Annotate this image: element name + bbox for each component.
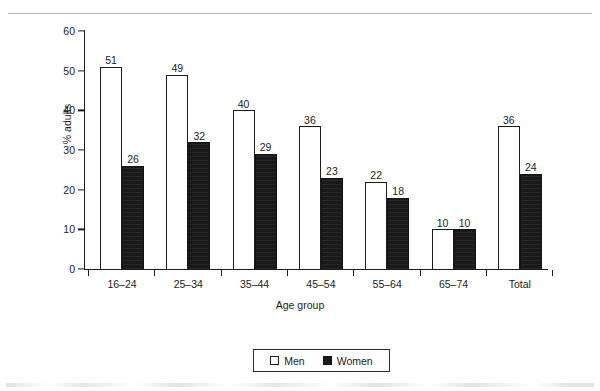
y-axis-tick bbox=[78, 149, 84, 150]
bar-men[interactable]: 49 bbox=[166, 75, 188, 269]
bar-women[interactable]: 29 bbox=[255, 154, 277, 269]
bar-men[interactable]: 40 bbox=[233, 110, 255, 269]
bar-women[interactable]: 26 bbox=[122, 166, 144, 269]
page-rule-top bbox=[8, 13, 592, 14]
bar-value-label: 24 bbox=[525, 162, 537, 173]
bar-men[interactable]: 51 bbox=[100, 67, 122, 269]
y-axis-tick bbox=[78, 189, 84, 190]
x-axis-tick bbox=[154, 270, 155, 276]
y-axis-tick-label: 20 bbox=[63, 185, 75, 196]
bar-women[interactable]: 24 bbox=[520, 174, 542, 269]
bar-value-label: 23 bbox=[326, 166, 338, 177]
x-axis-tick bbox=[287, 270, 288, 276]
y-axis-tick bbox=[78, 229, 84, 230]
x-axis-tick bbox=[552, 270, 553, 276]
x-axis-tick-label: 45–54 bbox=[306, 279, 335, 290]
bar-group: 4029 bbox=[233, 31, 277, 269]
legend-label-men: Men bbox=[284, 355, 304, 367]
bar-value-label: 36 bbox=[304, 115, 316, 126]
bar-men[interactable]: 10 bbox=[432, 229, 454, 269]
y-axis-tick bbox=[78, 70, 84, 71]
x-axis-tick-label: Total bbox=[509, 279, 531, 290]
bar-value-label: 49 bbox=[171, 63, 183, 74]
x-axis-tick-label: 25–34 bbox=[174, 279, 203, 290]
legend-item-men: Men bbox=[270, 355, 304, 367]
bar-group: 1010 bbox=[432, 31, 476, 269]
bar-women[interactable]: 23 bbox=[321, 178, 343, 269]
legend-item-women: Women bbox=[323, 355, 373, 367]
y-axis-tick bbox=[78, 30, 84, 31]
x-axis-tick bbox=[88, 270, 89, 276]
bar-women[interactable]: 10 bbox=[454, 229, 476, 269]
y-axis-tick-label: 60 bbox=[63, 26, 75, 37]
bar-group: 3624 bbox=[498, 31, 542, 269]
bar-men[interactable]: 22 bbox=[365, 182, 387, 269]
bar-value-label: 10 bbox=[437, 218, 449, 229]
bar-women[interactable]: 18 bbox=[387, 198, 409, 269]
y-axis-tick-label: 30 bbox=[63, 145, 75, 156]
bar-value-label: 36 bbox=[503, 115, 515, 126]
bar-group: 3623 bbox=[299, 31, 343, 269]
y-axis-tick-label: 0 bbox=[69, 264, 75, 275]
y-axis-tick-label: 10 bbox=[63, 224, 75, 235]
bar-value-label: 32 bbox=[193, 131, 205, 142]
bar-value-label: 22 bbox=[370, 170, 382, 181]
x-axis-tick bbox=[486, 270, 487, 276]
y-axis-tick bbox=[78, 268, 84, 269]
x-axis-tick-label: 65–74 bbox=[439, 279, 468, 290]
y-axis-tick-label: 40 bbox=[63, 105, 75, 116]
y-axis-tick-label: 50 bbox=[63, 66, 75, 77]
y-axis-tick bbox=[78, 110, 84, 111]
x-axis-tick bbox=[353, 270, 354, 276]
x-axis-tick-label: 16–24 bbox=[107, 279, 136, 290]
x-axis-tick bbox=[420, 270, 421, 276]
bar-women[interactable]: 32 bbox=[188, 142, 210, 269]
bar-value-label: 51 bbox=[105, 55, 117, 66]
x-axis-tick bbox=[221, 270, 222, 276]
bar-value-label: 29 bbox=[260, 142, 272, 153]
x-axis-tick-label: 35–44 bbox=[240, 279, 269, 290]
bar-value-label: 26 bbox=[127, 154, 139, 165]
chart-legend: Men Women bbox=[253, 349, 390, 372]
bar-men[interactable]: 36 bbox=[498, 126, 520, 269]
legend-label-women: Women bbox=[337, 355, 373, 367]
bar-group: 4932 bbox=[166, 31, 210, 269]
open-square-swatch-icon bbox=[270, 356, 279, 365]
x-axis-tick-label: 55–64 bbox=[373, 279, 402, 290]
plot-area: 0102030405060512649324029362322181010362… bbox=[84, 31, 548, 269]
filled-square-swatch-icon bbox=[323, 356, 332, 365]
x-axis-title: Age group bbox=[0, 299, 600, 311]
figure-container: % adults Age group 010203040506051264932… bbox=[0, 0, 600, 391]
bar-value-label: 18 bbox=[392, 186, 404, 197]
page-scan-artifact bbox=[6, 383, 594, 387]
bar-group: 2218 bbox=[365, 31, 409, 269]
bar-group: 5126 bbox=[100, 31, 144, 269]
bar-value-label: 10 bbox=[459, 218, 471, 229]
bar-men[interactable]: 36 bbox=[299, 126, 321, 269]
bar-value-label: 40 bbox=[238, 99, 250, 110]
